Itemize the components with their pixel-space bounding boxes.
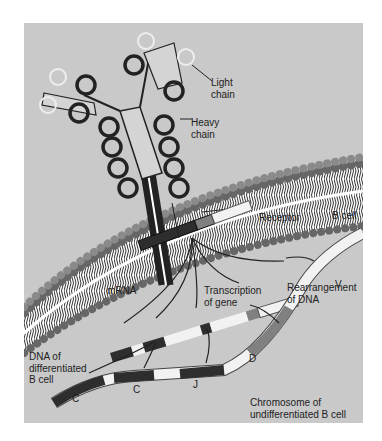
label-mrna: mRNA (107, 285, 136, 297)
label-b-cell: B cell (332, 210, 356, 222)
label-segment-v: V (335, 279, 342, 291)
cell-membrane (24, 157, 363, 353)
label-line: chain (211, 89, 235, 101)
label-segment-d: D (249, 353, 256, 365)
label-segment-c2: C (133, 384, 140, 396)
label-transcription: Transcription of gene (204, 285, 261, 308)
label-line: undifferentiated B cell (250, 409, 346, 421)
label-line: Transcription (204, 285, 261, 297)
label-heavy-chain: Heavy chain (191, 117, 219, 140)
label-line: of DNA (287, 294, 356, 306)
label-line: of gene (204, 297, 261, 309)
label-line: Heavy (191, 117, 219, 129)
label-rearrangement: Rearrangement of DNA (287, 282, 356, 305)
label-line: Light (211, 77, 235, 89)
label-line: DNA of (29, 351, 87, 363)
label-line: chain (191, 129, 219, 141)
label-chromosome: Chromosome of undifferentiated B cell (250, 397, 346, 420)
diagram-panel: Light chain Heavy chain Receptor B cell … (24, 23, 363, 423)
label-line: B cell (29, 374, 87, 386)
label-line: Chromosome of (250, 397, 346, 409)
antibody (40, 33, 212, 197)
label-receptor: Receptor (259, 212, 300, 224)
label-dna-differentiated: DNA of differentiated B cell (29, 351, 87, 386)
label-segment-j: J (193, 379, 198, 391)
label-line: Rearrangement (287, 282, 356, 294)
label-segment-c1: C (72, 393, 79, 405)
label-line: differentiated (29, 363, 87, 375)
label-light-chain: Light chain (211, 77, 235, 100)
